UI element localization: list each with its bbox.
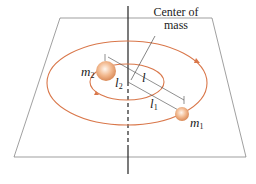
label-m1-symbol: m — [190, 115, 199, 130]
label-l2: l2 — [115, 76, 123, 91]
center-of-mass-label-line1: Center of — [141, 6, 211, 18]
label-m2-subscript: 2 — [90, 71, 94, 80]
label-l: l — [142, 71, 146, 84]
label-m1: m1 — [190, 116, 203, 131]
orbital-plane — [14, 18, 246, 157]
center-of-mass-label-line2: mass — [141, 19, 211, 31]
label-m2-symbol: m — [81, 64, 90, 79]
label-m1-subscript: 1 — [199, 122, 203, 131]
label-l1-subscript: 1 — [154, 103, 158, 112]
center-of-mass-label: Center of mass — [141, 6, 211, 31]
mass-m1 — [175, 107, 189, 121]
label-l2-subscript: 2 — [119, 82, 123, 91]
label-l1: l1 — [150, 97, 158, 112]
label-m2: m2 — [81, 65, 94, 80]
mass-m2 — [96, 61, 116, 81]
diagram-canvas — [0, 0, 256, 184]
label-l-symbol: l — [142, 70, 146, 85]
